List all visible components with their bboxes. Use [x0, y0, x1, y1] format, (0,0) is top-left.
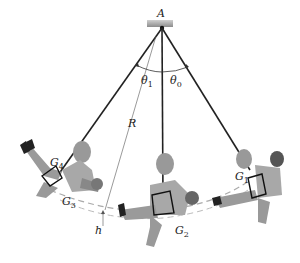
- label-theta1: θ1: [141, 74, 153, 89]
- label-g3: G3: [62, 195, 76, 210]
- rope-right: [162, 28, 250, 170]
- label-g1: G1: [235, 170, 249, 185]
- angle-arc-theta1: [136, 65, 162, 72]
- label-pivot-a: A: [156, 7, 165, 20]
- swinger-right: [212, 149, 284, 224]
- rope-left: [56, 28, 162, 178]
- ceiling-support: [147, 20, 173, 27]
- label-theta0: θ0: [170, 74, 182, 89]
- label-radius: R: [127, 117, 136, 130]
- angle-arc-theta0: [162, 67, 188, 72]
- pendulum-diagram: A θ1 θ0 R h G1 G2 G3 G4: [0, 0, 300, 263]
- label-height: h: [95, 224, 102, 237]
- label-g4: G4: [50, 156, 64, 171]
- label-g2: G2: [175, 224, 189, 239]
